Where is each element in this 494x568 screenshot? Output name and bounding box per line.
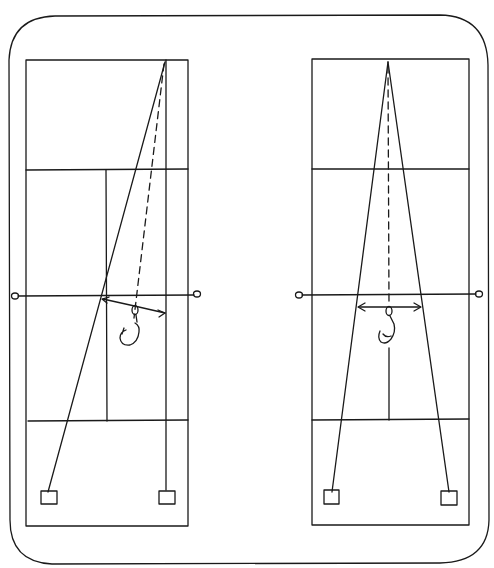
right-shot-line-left — [332, 62, 388, 492]
left-net — [18, 295, 194, 296]
right-court — [296, 59, 483, 525]
left-far-service-line — [26, 169, 188, 170]
player-figure-icon — [379, 316, 395, 343]
left-net-post-icon — [194, 291, 201, 297]
player-figure-icon — [120, 315, 139, 345]
left-target-box-icon — [41, 491, 57, 504]
right-shot-line-right — [388, 62, 449, 492]
left-shot-line-crosscourt — [48, 62, 165, 492]
right-target-box-icon — [441, 491, 457, 505]
right-court-boundary — [312, 59, 469, 525]
right-feed-path-dashed — [388, 66, 389, 305]
diagram-canvas — [0, 0, 494, 568]
arrowhead-icon — [158, 310, 165, 317]
racquet-icon — [386, 307, 392, 316]
outer-frame — [9, 15, 489, 564]
left-court — [12, 60, 201, 526]
right-target-box-icon — [159, 491, 175, 504]
left-feed-path-dashed — [134, 64, 164, 318]
left-near-service-line — [28, 420, 188, 421]
court-diagrams — [0, 0, 494, 568]
right-near-service-line — [312, 419, 469, 420]
